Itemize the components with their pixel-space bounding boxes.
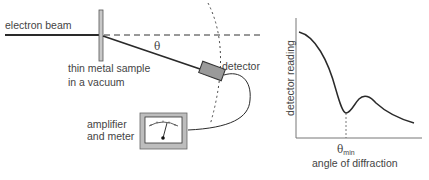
detector-reading-curve	[299, 32, 414, 123]
meter-icon	[140, 113, 187, 149]
electron-beam-label: electron beam	[5, 19, 72, 31]
graph-y-axis-label: detector reading	[284, 28, 296, 128]
graph-x-axis-label: angle of diffraction	[312, 157, 398, 169]
sample-label-line2: in a vacuum	[68, 76, 125, 88]
detector-label: detector	[222, 60, 260, 72]
sample-label-line1: thin metal sample	[68, 62, 150, 74]
metal-sample-plate	[99, 10, 103, 61]
angle-theta-label: θ	[154, 40, 160, 52]
meter-label-line1: amplifier	[87, 118, 127, 130]
meter-label-line2: and meter	[87, 130, 134, 142]
theta-min-subscript: min	[343, 149, 354, 156]
